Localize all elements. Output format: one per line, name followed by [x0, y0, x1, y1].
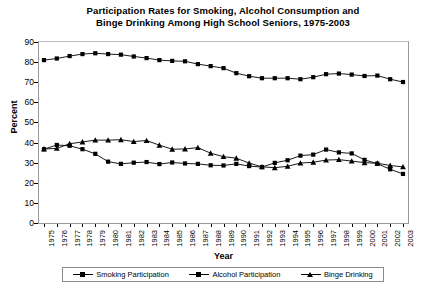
data-point	[183, 59, 187, 63]
legend-item-alcohol-participation[interactable]: Alcohol Participation	[189, 270, 280, 279]
data-point	[68, 54, 72, 58]
x-tick-label-1992: 1992	[265, 230, 274, 247]
x-tick-label-1989: 1989	[227, 230, 236, 247]
data-point	[183, 161, 187, 165]
x-tick-label-1983: 1983	[150, 230, 159, 247]
y-tick-label-90: 90	[25, 37, 34, 47]
data-point	[170, 59, 174, 63]
data-point	[157, 162, 161, 166]
x-tick-mark-2003	[403, 224, 404, 227]
x-tick-mark-1985	[172, 224, 173, 227]
x-tick-label-1993: 1993	[278, 230, 287, 247]
x-tick-mark-1984	[159, 224, 160, 227]
data-point	[311, 75, 315, 79]
data-point	[324, 147, 328, 151]
x-tick-mark-1979	[95, 224, 96, 227]
series-line	[44, 145, 403, 174]
x-tick-mark-1980	[108, 224, 109, 227]
data-point	[208, 150, 214, 155]
x-tick-mark-1998	[339, 224, 340, 227]
x-tick-label-1996: 1996	[316, 230, 325, 247]
y-tick-label-40: 40	[25, 138, 34, 148]
x-tick-label-1981: 1981	[124, 230, 133, 247]
data-point	[234, 162, 238, 166]
data-point	[196, 62, 200, 66]
x-tick-label-1999: 1999	[355, 230, 364, 247]
x-tick-label-1976: 1976	[60, 230, 69, 247]
x-tick-mark-2001	[377, 224, 378, 227]
data-point	[132, 161, 136, 165]
data-point	[132, 54, 136, 58]
x-tick-mark-1995	[300, 224, 301, 227]
x-tick-label-2000: 2000	[368, 230, 377, 247]
x-tick-mark-1975	[44, 224, 45, 227]
data-point	[298, 77, 302, 81]
data-point	[350, 72, 354, 76]
data-point	[234, 71, 238, 75]
data-point	[157, 58, 161, 62]
data-point	[55, 56, 59, 60]
data-point	[311, 153, 315, 157]
data-point	[119, 162, 123, 166]
data-point	[221, 66, 225, 70]
data-point	[221, 163, 225, 167]
x-tick-mark-1978	[82, 224, 83, 227]
y-tick-label-30: 30	[25, 158, 34, 168]
data-point	[401, 80, 405, 84]
legend-item-binge-drinking[interactable]: Binge Drinking	[301, 270, 373, 279]
x-tick-mark-1986	[185, 224, 186, 227]
x-tick-label-1978: 1978	[85, 230, 94, 247]
x-tick-mark-1976	[57, 224, 58, 227]
chart-title: Participation Rates for Smoking, Alcohol…	[0, 5, 446, 29]
data-point	[93, 51, 97, 55]
x-tick-label-1990: 1990	[239, 230, 248, 247]
chart-figure: Participation Rates for Smoking, Alcohol…	[0, 0, 446, 290]
data-point	[170, 160, 174, 164]
x-tick-mark-1997	[326, 224, 327, 227]
x-tick-label-1982: 1982	[137, 230, 146, 247]
x-tick-label-1987: 1987	[201, 230, 210, 247]
x-tick-label-1979: 1979	[98, 230, 107, 247]
x-tick-mark-1989	[224, 224, 225, 227]
y-axis-tick-labels: 0102030405060708090	[0, 41, 34, 224]
x-tick-mark-1977	[70, 224, 71, 227]
x-tick-label-1991: 1991	[252, 230, 261, 247]
data-point	[93, 152, 97, 156]
data-point	[119, 53, 123, 57]
legend-label: Alcohol Participation	[212, 270, 280, 279]
data-point	[298, 154, 302, 158]
x-tick-mark-1991	[249, 224, 250, 227]
y-tick-label-70: 70	[25, 77, 34, 87]
x-tick-mark-1996	[313, 224, 314, 227]
x-axis-title: Year	[38, 251, 409, 261]
y-tick-label-10: 10	[25, 198, 34, 208]
series-layer	[39, 42, 408, 223]
data-point	[337, 150, 341, 154]
data-point	[324, 72, 328, 76]
legend-item-smoking-participation[interactable]: Smoking Participation	[73, 270, 169, 279]
data-point	[209, 64, 213, 68]
x-tick-mark-2000	[365, 224, 366, 227]
data-point	[362, 74, 366, 78]
x-tick-label-1975: 1975	[47, 230, 56, 247]
y-tick-label-20: 20	[25, 178, 34, 188]
x-tick-mark-1987	[198, 224, 199, 227]
series-alcohol-participation	[42, 51, 405, 84]
data-point	[246, 160, 252, 165]
x-tick-label-1995: 1995	[303, 230, 312, 247]
data-point	[144, 56, 148, 60]
x-tick-mark-1993	[275, 224, 276, 227]
x-tick-mark-2002	[390, 224, 391, 227]
x-tick-mark-1983	[147, 224, 148, 227]
data-point	[156, 142, 162, 147]
legend-label: Smoking Participation	[96, 270, 169, 279]
data-point	[337, 71, 341, 75]
chart-legend: Smoking ParticipationAlcohol Participati…	[62, 267, 384, 282]
plot-area	[38, 41, 409, 224]
x-tick-label-1998: 1998	[342, 230, 351, 247]
data-point	[80, 52, 84, 56]
x-tick-mark-1990	[236, 224, 237, 227]
data-point	[106, 160, 110, 164]
x-tick-label-1984: 1984	[162, 230, 171, 247]
x-tick-label-1988: 1988	[214, 230, 223, 247]
